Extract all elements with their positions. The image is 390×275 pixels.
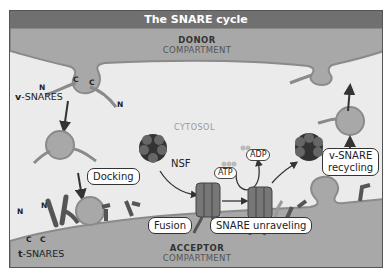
n-terminus-label: N bbox=[117, 100, 123, 109]
diagram-frame: The SNARE cycle bbox=[9, 10, 383, 268]
n-terminus-label: N bbox=[39, 83, 45, 92]
nsf-complex-released bbox=[295, 133, 323, 161]
nsf-complex bbox=[139, 134, 167, 163]
atp-label: ATP bbox=[214, 167, 237, 179]
nsf-label: NSF bbox=[171, 158, 191, 169]
n-terminus-label: N bbox=[17, 207, 23, 216]
t-snares-label: t-SNARES bbox=[18, 248, 64, 259]
donor-label: DONOR COMPARTMENT bbox=[10, 35, 383, 55]
v-snares-label: v-SNARES bbox=[15, 91, 63, 102]
unraveling-step-label: SNARE unraveling bbox=[210, 217, 312, 234]
fusion-step-label: Fusion bbox=[148, 217, 192, 234]
acceptor-label: ACCEPTOR COMPARTMENT bbox=[10, 243, 383, 263]
c-terminus-label: C bbox=[40, 235, 46, 244]
adp-label: ADP bbox=[246, 149, 270, 161]
docking-step-label: Docking bbox=[87, 168, 140, 185]
c-terminus-label: C bbox=[89, 78, 95, 87]
c-terminus-label: C bbox=[26, 235, 32, 244]
recycling-step-label: v-SNARE recycling bbox=[322, 148, 379, 176]
cytosol-label: CYTOSOL bbox=[174, 123, 215, 132]
diagram-title: The SNARE cycle bbox=[10, 11, 382, 28]
n-terminus-label: N bbox=[41, 201, 47, 210]
c-terminus-label: C bbox=[73, 75, 79, 84]
